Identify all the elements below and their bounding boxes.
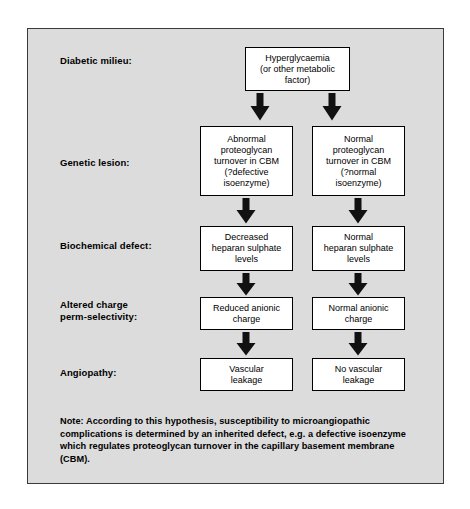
row-label-biochemical-defect: Biochemical defect:	[60, 240, 152, 252]
node-angiopathy-left: Vascular leakage	[200, 358, 293, 391]
arrow-down-genetic-left	[236, 198, 256, 224]
row-label-genetic-lesion: Genetic lesion:	[60, 157, 130, 169]
arrow-down-biochem-left	[236, 273, 256, 296]
node-hyperglycaemia: Hyperglycaemia (or other metabolic facto…	[245, 47, 350, 91]
node-altered-charge-right: Normal anionic charge	[312, 297, 405, 330]
node-altered-charge-left: Reduced anionic charge	[200, 297, 293, 330]
row-label-diabetic-milieu: Diabetic milieu:	[60, 55, 132, 67]
arrow-down-charge-right	[348, 332, 368, 356]
node-genetic-lesion-left: Abnormal proteoglycan turnover in CBM (?…	[200, 126, 293, 196]
arrow-down-top-left	[250, 93, 270, 121]
node-angiopathy-right: No vascular leakage	[312, 358, 405, 391]
flowchart-stage: Diabetic milieu: Genetic lesion: Biochem…	[28, 29, 443, 483]
figure-note: Note: According to this hypothesis, susc…	[60, 415, 416, 465]
row-label-angiopathy: Angiopathy:	[60, 367, 117, 379]
node-biochemical-defect-left: Decreased heparan sulphate levels	[200, 226, 293, 271]
arrow-down-charge-left	[236, 332, 256, 356]
figure-frame: Diabetic milieu: Genetic lesion: Biochem…	[27, 28, 444, 484]
arrow-down-genetic-right	[348, 198, 368, 224]
arrow-down-top-right	[322, 93, 342, 121]
node-genetic-lesion-right: Normal proteoglycan turnover in CBM (?no…	[312, 126, 405, 196]
node-biochemical-defect-right: Normal heparan sulphate levels	[312, 226, 405, 271]
arrow-down-biochem-right	[348, 273, 368, 296]
row-label-altered-charge-perm-selectivity: Altered charge perm-selectivity:	[60, 299, 137, 322]
